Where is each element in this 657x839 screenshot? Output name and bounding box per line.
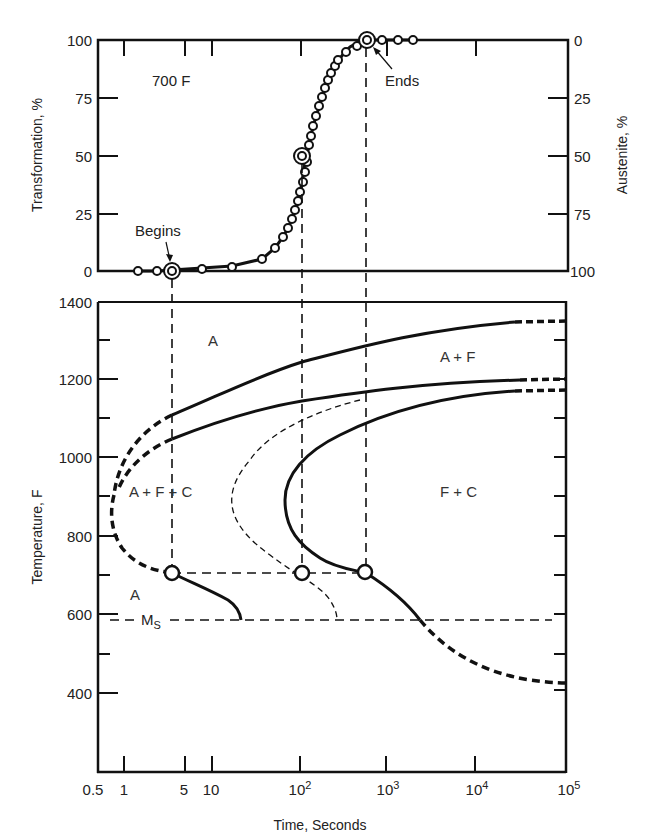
region-a-plus-f-plus-c: A + F + C: [129, 483, 193, 500]
region-a-top: A: [208, 332, 218, 349]
top-left-tick-100: 100: [67, 32, 92, 49]
top-left-y-ticks: [98, 98, 118, 214]
ferrite-start-extension: [520, 379, 566, 380]
y-tick-600: 600: [67, 606, 92, 623]
bottom-y-ticks: [98, 340, 118, 693]
top-right-tick-75: 75: [574, 206, 591, 223]
top-right-tick-0: 0: [574, 32, 582, 49]
begins-arrowhead-icon: [166, 254, 173, 262]
region-f-plus-c: F + C: [440, 483, 477, 500]
y-tick-800: 800: [67, 528, 92, 545]
connector-lines: [172, 48, 366, 573]
transformation-start-lower: [172, 573, 241, 620]
bottom-x-ticks: [124, 756, 475, 772]
transformation-finish-tail-dashed: [420, 620, 566, 683]
top-left-tick-25: 25: [75, 206, 92, 223]
top-x-ticks: [124, 40, 476, 56]
transformation-chart: 100 75 50 25 0 0 25 50 75 100 Transforma…: [29, 32, 630, 280]
top-left-tick-50: 50: [75, 148, 92, 165]
top-right-tick-50: 50: [574, 148, 591, 165]
x-tick-10e3: 103: [377, 779, 400, 798]
y-tick-1000: 1000: [59, 449, 92, 466]
begins-label: Begins: [135, 222, 181, 239]
transformation-finish-lower: [366, 573, 420, 620]
y-tick-400: 400: [67, 685, 92, 702]
upper-boundary-curve: [172, 322, 515, 415]
upper-boundary-extension: [515, 321, 566, 322]
key-point-ends: [359, 32, 375, 48]
x-tick-10e2: 102: [289, 779, 312, 798]
ferrite-start-curve: [172, 380, 520, 439]
top-right-tick-25: 25: [574, 90, 591, 107]
temperature-annotation: 700 F: [152, 72, 190, 89]
y-tick-1400: 1400: [59, 294, 92, 311]
x-tick-10e5: 105: [558, 779, 581, 798]
ttt-chart: 1400 1200 1000 800 600 400 0.5 1 5 10 10…: [29, 294, 580, 833]
y-tick-1200: 1200: [59, 371, 92, 388]
top-right-y-ticks: [548, 98, 568, 214]
x-tick-10: 10: [203, 781, 220, 798]
top-left-tick-75: 75: [75, 90, 92, 107]
top-left-axis-title: Transformation, %: [29, 98, 45, 212]
key-point-50-percent: [294, 148, 310, 164]
top-right-tick-100: 100: [570, 263, 595, 280]
bottom-right-ticks: [554, 340, 566, 690]
y-axis-title: Temperature, F: [29, 490, 45, 585]
marker-50-percent: [295, 566, 309, 580]
ttt-diagram: 100 75 50 25 0 0 25 50 75 100 Transforma…: [0, 0, 657, 839]
ends-label: Ends: [385, 72, 419, 89]
transformation-finish-upper-extension: [515, 390, 566, 391]
region-a-bottom: A: [130, 586, 140, 603]
region-a-plus-f: A + F: [440, 348, 475, 365]
key-point-begins: [164, 263, 180, 279]
x-axis-title: Time, Seconds: [274, 817, 367, 833]
transformation-start-nose: [112, 495, 172, 573]
marker-ends: [358, 565, 372, 579]
top-right-axis-title: Austenite, %: [614, 116, 630, 195]
x-tick-0.5: 0.5: [83, 781, 104, 798]
transformation-finish-upper: [285, 391, 515, 573]
x-tick-5: 5: [180, 781, 188, 798]
marker-begins: [165, 566, 179, 580]
top-left-tick-0: 0: [84, 263, 92, 280]
x-tick-1: 1: [120, 781, 128, 798]
x-tick-10e4: 104: [466, 779, 489, 798]
